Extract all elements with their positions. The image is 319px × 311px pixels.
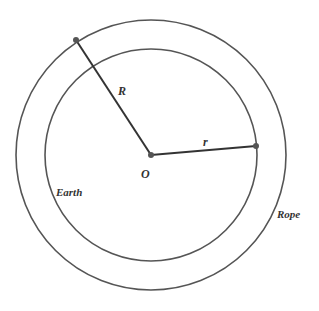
radius-R-line (76, 40, 151, 155)
label-earth: Earth (55, 186, 82, 198)
rope-point (73, 37, 79, 43)
center-point (148, 152, 154, 158)
label-r: r (203, 135, 208, 149)
label-O: O (141, 167, 150, 181)
label-R: R (117, 84, 126, 98)
earth-point (253, 143, 259, 149)
label-rope: Rope (276, 208, 300, 220)
earth-rope-diagram: R r O Earth Rope (0, 0, 319, 311)
